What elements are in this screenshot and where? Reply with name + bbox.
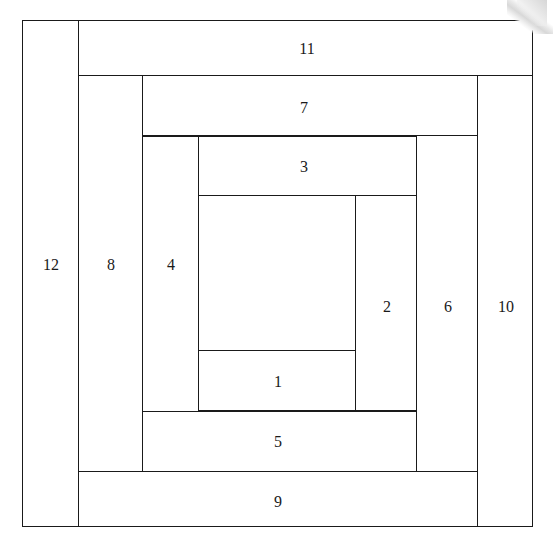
piece-label-4: 4 [167, 257, 175, 273]
piece-label-5: 5 [274, 434, 282, 450]
quilt-piece-1: 1 [198, 350, 356, 411]
piece-label-1: 1 [274, 374, 282, 390]
quilt-piece-6: 6 [416, 135, 478, 472]
quilt-piece-7: 7 [142, 75, 478, 136]
piece-label-11: 11 [299, 41, 314, 57]
piece-label-8: 8 [107, 257, 115, 273]
piece-label-7: 7 [300, 100, 308, 116]
quilt-piece-12: 12 [22, 20, 79, 527]
piece-label-9: 9 [274, 494, 282, 510]
piece-label-12: 12 [43, 257, 59, 273]
quilt-block-diagram: 123456789101112 [0, 0, 553, 547]
quilt-piece-3: 3 [198, 136, 417, 196]
quilt-piece-8: 8 [78, 75, 143, 472]
piece-label-6: 6 [444, 299, 452, 315]
quilt-piece-5: 5 [142, 411, 418, 472]
quilt-piece-4: 4 [142, 136, 199, 412]
piece-label-10: 10 [498, 299, 514, 315]
piece-label-2: 2 [383, 299, 391, 315]
piece-label-3: 3 [300, 159, 308, 175]
quilt-piece-11: 11 [78, 20, 533, 76]
quilt-piece-9: 9 [78, 471, 478, 527]
quilt-piece-2: 2 [355, 195, 417, 411]
quilt-piece-10: 10 [477, 75, 533, 527]
